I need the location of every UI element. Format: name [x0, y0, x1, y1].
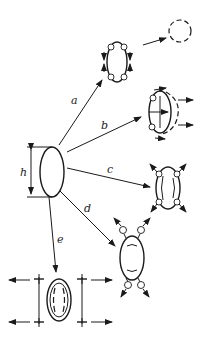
result-e-droplet	[9, 274, 112, 327]
dimension-label-h: h	[20, 166, 27, 179]
source-droplet	[27, 147, 64, 197]
result-d-droplet	[114, 218, 150, 297]
result-c-droplet	[150, 164, 186, 212]
diagram-canvas: h a b c	[0, 0, 208, 341]
path-label-b: b	[101, 119, 108, 132]
path-label-e: e	[57, 233, 64, 246]
result-a-droplet	[104, 42, 130, 82]
path-e-arrow	[49, 197, 56, 272]
path-a-arrow	[59, 80, 102, 145]
path-label-d: d	[84, 202, 91, 215]
path-label-a: a	[71, 94, 78, 107]
path-a-detach-arrow	[143, 38, 166, 45]
result-b-droplet	[149, 88, 193, 139]
path-d-arrow	[60, 191, 115, 246]
path-label-c: c	[107, 163, 113, 176]
detached-droplet-dashed	[169, 20, 191, 42]
